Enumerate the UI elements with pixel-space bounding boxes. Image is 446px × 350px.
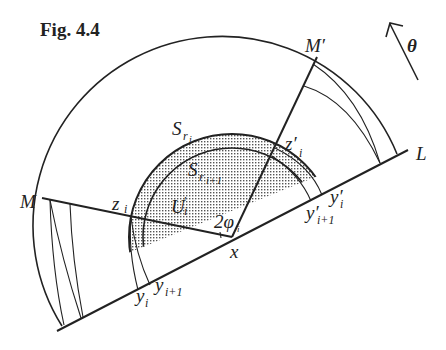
svg-text:i: i [340,197,343,211]
svg-text:y: y [153,274,164,295]
svg-text:S: S [188,159,198,180]
label-M: M [19,191,37,212]
label-y-i1: y i+1 [153,274,182,299]
label-angle-2phi: 2φ i [214,211,240,234]
figure-title: Fig. 4.4 [40,19,100,40]
svg-text:i+1: i+1 [206,174,222,186]
label-y-i: y i [134,285,148,310]
figure-4-4-diagram: Fig. 4.4 θ M M′ L x z i z′ [0,0,446,350]
svg-text:i: i [299,146,302,160]
aux-arc-M-inner [50,200,81,318]
svg-text:i: i [189,134,192,145]
label-y-prime-i: y′ i [328,186,343,211]
svg-text:i: i [184,204,187,218]
svg-text:z′: z′ [284,133,297,154]
svg-text:i: i [124,202,127,216]
label-U-i: U ′ i [171,193,187,218]
label-L: L [415,143,427,164]
svg-text:i: i [145,296,148,310]
label-z-i: z i [111,193,127,216]
label-x: x [229,241,239,262]
svg-text:r: r [199,170,204,184]
label-M-prime: M′ [304,35,326,56]
theta-label: θ [407,35,417,56]
svg-text:r: r [183,129,188,143]
svg-text:i+1: i+1 [165,285,182,299]
svg-text:y: y [134,285,145,306]
svg-text:S: S [172,118,182,139]
svg-text:i+1: i+1 [317,213,334,227]
aux-arc-Mprime-inner [304,86,380,163]
aux-arc-M-tick [70,204,83,317]
svg-text:2φ: 2φ [214,211,234,232]
svg-text:z: z [111,193,120,214]
svg-text:i: i [237,224,240,234]
label-S-ri: S r i [172,118,192,145]
angle-tick [220,232,221,238]
aux-arc-M-left [50,200,64,325]
